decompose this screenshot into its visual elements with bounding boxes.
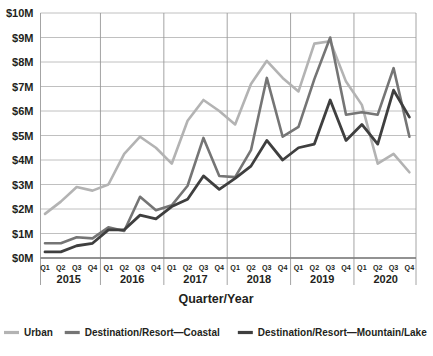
y-tick-label: $6M: [12, 105, 33, 117]
quarter-label: Q2: [183, 263, 193, 272]
year-label: 2019: [310, 273, 334, 285]
y-tick-label: $0M: [12, 252, 33, 264]
legend-item[interactable]: Destination/Resort—Mountain/Lake: [238, 327, 427, 338]
y-tick-label: $4M: [12, 154, 33, 166]
y-tick-label: $10M: [6, 7, 34, 19]
quarter-label: Q3: [262, 263, 272, 272]
y-tick-label: $5M: [12, 130, 33, 142]
quarter-label: Q4: [405, 263, 415, 272]
y-axis-tick-labels: $10M$9M$8M$7M$6M$5M$4M$3M$2M$1M$0M: [6, 7, 34, 264]
quarter-label: Q3: [72, 263, 82, 272]
quarter-label: Q1: [167, 263, 177, 272]
quarter-label: Q4: [341, 263, 351, 272]
gridlines: [41, 13, 417, 258]
legend-label: Destination/Resort—Mountain/Lake: [258, 327, 427, 338]
legend-item[interactable]: Urban: [4, 327, 53, 338]
quarter-label: Q2: [373, 263, 383, 272]
y-tick-label: $3M: [12, 179, 33, 191]
legend-item[interactable]: Destination/Resort—Coastal: [65, 327, 220, 338]
year-label: 2018: [247, 273, 271, 285]
y-tick-label: $7M: [12, 81, 33, 93]
quarter-label: Q3: [389, 263, 399, 272]
quarter-label: Q1: [357, 263, 367, 272]
year-label: 2015: [57, 273, 81, 285]
quarter-label: Q1: [294, 263, 304, 272]
quarter-label: Q2: [56, 263, 66, 272]
chart-legend: UrbanDestination/Resort—CoastalDestinati…: [4, 327, 427, 338]
quarter-label: Q4: [88, 263, 98, 272]
quarter-label: Q4: [214, 263, 224, 272]
quarter-label: Q2: [246, 263, 256, 272]
legend-label: Destination/Resort—Coastal: [85, 327, 220, 338]
quarter-label: Q2: [310, 263, 320, 272]
y-tick-label: $1M: [12, 228, 33, 240]
y-tick-label: $2M: [12, 203, 33, 215]
x-axis-title: Quarter/Year: [178, 292, 253, 306]
y-tick-label: $8M: [12, 56, 33, 68]
quarter-label: Q3: [135, 263, 145, 272]
quarter-label: Q1: [230, 263, 240, 272]
year-label: 2017: [183, 273, 207, 285]
y-tick-label: $9M: [12, 32, 33, 44]
quarter-label: Q2: [119, 263, 129, 272]
legend-label: Urban: [24, 327, 53, 338]
line-chart: $10M$9M$8M$7M$6M$5M$4M$3M$2M$1M$0M Q1Q2Q…: [0, 0, 433, 356]
quarter-label: Q4: [278, 263, 288, 272]
quarter-label: Q1: [104, 263, 114, 272]
quarter-label: Q3: [325, 263, 335, 272]
year-label: 2016: [120, 273, 144, 285]
year-separators: [41, 13, 417, 285]
chart-container: $10M$9M$8M$7M$6M$5M$4M$3M$2M$1M$0M Q1Q2Q…: [0, 0, 433, 356]
year-label: 2020: [373, 273, 397, 285]
quarter-label: Q3: [199, 263, 209, 272]
quarter-label: Q4: [151, 263, 161, 272]
quarter-label: Q1: [40, 263, 50, 272]
